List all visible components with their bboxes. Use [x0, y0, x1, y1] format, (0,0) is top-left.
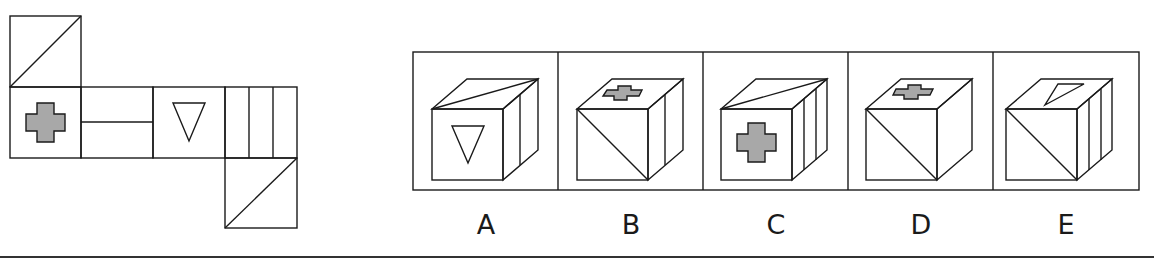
triangle-icon: [173, 103, 205, 141]
cross-icon: [26, 103, 65, 142]
diagonal-line-icon: [1006, 109, 1077, 180]
diagonal-line-icon: [10, 16, 81, 87]
net-face-stripes: [225, 87, 297, 158]
option-c-label[interactable]: C: [746, 210, 806, 240]
cross-icon: [893, 85, 933, 99]
option-d-cube[interactable]: [866, 79, 972, 180]
option-d-label[interactable]: D: [891, 210, 951, 240]
diagonal-line-icon: [432, 79, 538, 109]
option-c-cube[interactable]: [721, 79, 827, 180]
diagonal-line-icon: [866, 109, 937, 180]
bottom-divider: [0, 256, 1154, 258]
diagonal-line-icon: [225, 158, 297, 228]
diagonal-line-icon: [577, 109, 648, 180]
option-a-cube[interactable]: [432, 79, 538, 180]
cross-icon: [737, 123, 776, 162]
net-face-triangle: [153, 87, 225, 158]
puzzle-figure: [0, 0, 1154, 264]
cube-net: [10, 16, 297, 228]
option-b-label[interactable]: B: [601, 210, 661, 240]
triangle-icon: [1045, 84, 1084, 105]
triangle-icon: [452, 126, 484, 163]
option-b-cube[interactable]: [577, 79, 683, 180]
option-e-label[interactable]: E: [1036, 210, 1096, 240]
option-e-cube[interactable]: [1006, 79, 1112, 180]
option-a-label[interactable]: A: [456, 210, 516, 240]
diagonal-line-icon: [721, 79, 827, 109]
cross-icon: [603, 86, 642, 100]
options-frame: [413, 52, 1139, 190]
